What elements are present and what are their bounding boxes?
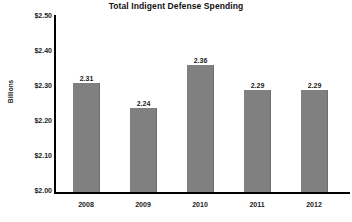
x-tick-label: 2010 — [175, 201, 225, 208]
bar-chart: Total Indigent Defense Spending Billions… — [0, 0, 352, 222]
bar[interactable] — [130, 108, 157, 192]
y-axis-tick-labels: $2.50 $2.40 $2.30 $2.20 $2.10 $2.00 — [0, 0, 52, 222]
x-tick-label: 2011 — [232, 201, 282, 208]
bar[interactable] — [187, 65, 214, 192]
bar-value-label: 2.31 — [65, 75, 108, 82]
y-tick-label: $2.40 — [6, 47, 52, 54]
bar[interactable] — [73, 83, 100, 192]
y-tick-label: $2.20 — [6, 117, 52, 124]
y-tick-label: $2.00 — [6, 187, 52, 194]
y-tick-label: $2.10 — [6, 152, 52, 159]
y-tick-label: $2.50 — [6, 12, 52, 19]
chart-title: Total Indigent Defense Spending — [0, 1, 352, 11]
x-tick-label: 2012 — [289, 201, 339, 208]
bar[interactable] — [301, 90, 328, 192]
x-tick-label: 2009 — [118, 201, 168, 208]
bar-value-label: 2.36 — [179, 57, 222, 64]
plot-area: 2.31 2.24 2.36 2.29 2.29 — [56, 16, 350, 192]
bar-value-label: 2.29 — [293, 82, 336, 89]
bar-value-label: 2.29 — [236, 82, 279, 89]
y-tick-label: $2.30 — [6, 82, 52, 89]
bar-value-label: 2.24 — [122, 100, 165, 107]
bar[interactable] — [244, 90, 271, 192]
x-axis-line — [54, 192, 350, 194]
x-tick-label: 2008 — [61, 201, 111, 208]
